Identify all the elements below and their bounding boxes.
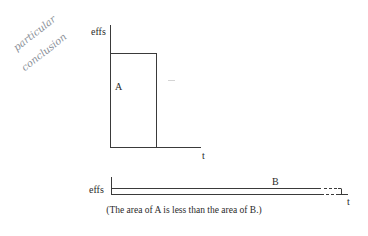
area-a-rectangle <box>111 54 157 148</box>
bottom-y-axis-label: effs <box>89 185 104 195</box>
top-y-axis-label: effs <box>91 27 106 37</box>
figure-caption: (The area of A is less than the area of … <box>0 205 368 215</box>
top-x-axis-label: t <box>202 151 205 161</box>
bottom-chart-axes <box>111 177 348 195</box>
diagram-canvas <box>0 0 368 236</box>
area-b-label: B <box>272 177 279 187</box>
area-b-rectangle <box>112 189 342 195</box>
area-a-label: A <box>115 82 122 92</box>
top-chart-axes <box>110 25 201 148</box>
